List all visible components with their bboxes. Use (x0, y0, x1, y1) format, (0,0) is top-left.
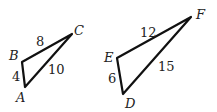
vertex-label-c: C (74, 24, 84, 37)
side-label-bc: 8 (36, 35, 44, 48)
side-label-ab: 4 (12, 70, 20, 83)
vertex-label-a: A (16, 91, 25, 104)
vertex-label-e: E (104, 51, 114, 64)
vertex-label-d: D (125, 97, 135, 110)
similar-triangles-diagram: B C A 8 4 10 E F D 12 6 15 (0, 0, 217, 112)
side-label-ac: 10 (48, 63, 65, 76)
vertex-label-f: F (196, 8, 205, 21)
side-label-df: 15 (158, 60, 175, 73)
side-label-de: 6 (108, 72, 116, 85)
side-label-ef: 12 (140, 26, 157, 39)
triangle-abc (22, 34, 72, 87)
vertex-label-b: B (9, 49, 19, 62)
